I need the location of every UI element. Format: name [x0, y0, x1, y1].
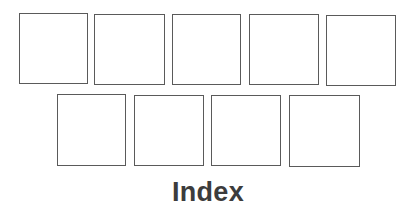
page-title: Index [0, 176, 416, 208]
tile-3[interactable] [172, 14, 241, 85]
tile-7[interactable] [134, 95, 204, 166]
tile-6[interactable] [57, 94, 126, 166]
tile-9[interactable] [289, 95, 360, 167]
tile-1[interactable] [19, 13, 88, 84]
tile-2[interactable] [94, 14, 165, 85]
tile-5[interactable] [326, 15, 396, 86]
tile-8[interactable] [211, 95, 281, 166]
tile-4[interactable] [249, 14, 319, 85]
